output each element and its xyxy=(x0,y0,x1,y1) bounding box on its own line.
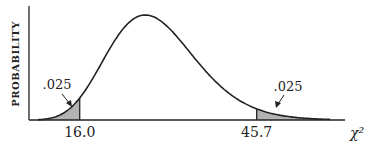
lower-tail-annotation: .025 xyxy=(43,77,72,92)
x-axis-label: χ² xyxy=(349,125,364,141)
x-tick-label: 16.0 xyxy=(64,124,95,140)
upper-annotation-arrowhead xyxy=(275,101,281,108)
lower-annotation-arrowhead xyxy=(66,100,72,107)
x-tick-label: 45.7 xyxy=(241,124,272,140)
density-curve xyxy=(38,15,330,120)
upper-tail-annotation: .025 xyxy=(274,79,303,94)
chart-svg: PROBABILITY 16.0 45.7 χ² .025 .025 xyxy=(0,0,373,147)
y-axis-label: PROBABILITY xyxy=(10,21,21,107)
lower-tail-area xyxy=(38,98,80,120)
chi-square-chart: PROBABILITY 16.0 45.7 χ² .025 .025 xyxy=(0,0,373,147)
